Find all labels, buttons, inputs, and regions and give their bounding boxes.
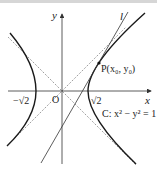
point-p-label: P(x₀, y₀) [101, 63, 135, 75]
asymptote-y-eq-x [10, 27, 126, 143]
origin-label: O [52, 94, 59, 105]
tangent-line-label: l [120, 10, 123, 22]
hyperbola-right-branch [88, 13, 145, 164]
tangent-line-l [41, 12, 128, 163]
tick-pos-sqrt2: √2 [91, 95, 102, 106]
x-axis-label: x [144, 94, 150, 106]
hyperbola-figure: y x O −√2 √2 P(x₀, y₀) l C: x² − y² = 1 [0, 0, 157, 171]
curve-equation-label: C: x² − y² = 1 [102, 108, 156, 119]
tick-neg-sqrt2: −√2 [13, 95, 29, 106]
y-axis-label: y [51, 9, 57, 21]
